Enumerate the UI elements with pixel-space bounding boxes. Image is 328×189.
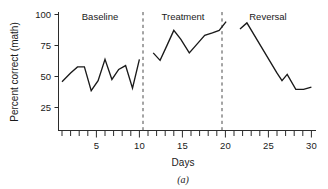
y-axis-tick-labels: 100 75 50 25 (35, 9, 51, 113)
data-line-baseline (62, 59, 139, 90)
x-axis-title: Days (172, 157, 195, 168)
x-tick-label: 20 (220, 140, 231, 151)
figure-caption: (a) (177, 174, 189, 186)
phase-label-baseline: Baseline (82, 11, 118, 22)
y-tick-label: 50 (40, 71, 51, 82)
figure-container: 100 75 50 25 (0, 0, 328, 189)
x-tick-label: 5 (94, 140, 99, 151)
phase-label-treatment: Treatment (162, 11, 205, 22)
x-axis-tick-labels: 5 10 15 20 25 30 (94, 140, 317, 151)
line-chart: 100 75 50 25 (0, 0, 328, 189)
x-tick-label: 25 (263, 140, 274, 151)
y-axis-title: Percent correct (math) (9, 22, 20, 121)
y-tick-label: 75 (40, 40, 51, 51)
phase-label-reversal: Reversal (249, 11, 287, 22)
y-tick-label: 100 (35, 9, 51, 20)
y-axis-ticks (55, 15, 59, 108)
x-tick-label: 10 (134, 140, 145, 151)
x-tick-label: 30 (306, 140, 317, 151)
data-line-reversal (240, 23, 311, 90)
y-tick-label: 25 (40, 102, 51, 113)
data-line-treatment (153, 22, 226, 61)
x-axis-ticks (62, 131, 311, 138)
x-tick-label: 15 (177, 140, 188, 151)
